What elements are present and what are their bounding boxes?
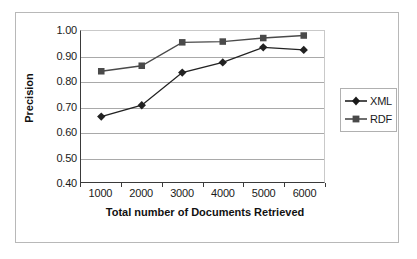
y-tick-label: 0.80 (43, 76, 77, 87)
data-point-square (300, 32, 307, 39)
chart-legend: XML RDF (340, 88, 397, 132)
data-point-square (260, 35, 267, 42)
series-xml (97, 43, 308, 120)
data-point-square (179, 39, 186, 46)
x-tick-label: 4000 (200, 187, 246, 199)
legend-entry-xml: XML (344, 93, 396, 109)
x-tick-label: 1000 (77, 187, 123, 199)
x-tick-label: 2000 (118, 187, 164, 199)
x-tick-label: 6000 (282, 187, 328, 199)
data-point-square (219, 38, 226, 45)
x-axis-title: Total number of Documents Retrieved (60, 206, 350, 218)
y-tick-label: 0.40 (43, 178, 77, 189)
y-tick-label: 0.90 (43, 51, 77, 62)
series-line (101, 47, 303, 116)
legend-marker-diamond-icon (344, 93, 368, 109)
legend-label: XML (370, 95, 392, 107)
data-point-diamond (97, 112, 105, 120)
legend-label: RDF (370, 113, 392, 125)
y-axis-title: Precision (23, 58, 35, 138)
y-tick-label: 0.70 (43, 102, 77, 113)
chart-figure: Precision 1.00 0.90 0.80 0.70 0.60 0.50 … (0, 0, 417, 259)
series-plot (81, 31, 324, 182)
legend-entry-rdf: RDF (344, 111, 396, 127)
data-point-diamond (219, 58, 227, 66)
legend-marker-square-icon (344, 111, 368, 127)
data-point-square (98, 68, 105, 75)
x-tick-label: 3000 (159, 187, 205, 199)
plot-area (80, 30, 325, 183)
y-axis-tick-labels: 1.00 0.90 0.80 0.70 0.60 0.50 0.40 (40, 30, 77, 183)
x-tick-label: 5000 (241, 187, 287, 199)
data-point-square (138, 62, 145, 69)
series-line (101, 36, 303, 72)
y-tick-label: 0.60 (43, 127, 77, 138)
data-point-diamond (300, 46, 308, 54)
y-tick-label: 0.50 (43, 153, 77, 164)
data-point-diamond (259, 43, 267, 51)
y-tick-label: 1.00 (43, 25, 77, 36)
x-axis-tick-labels: 1000 2000 3000 4000 5000 6000 (80, 187, 325, 201)
